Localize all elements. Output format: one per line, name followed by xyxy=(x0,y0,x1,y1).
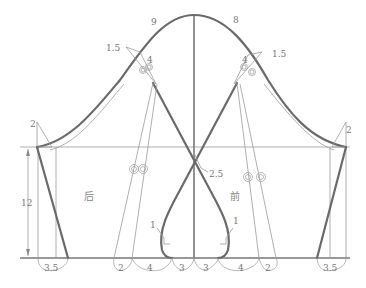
hem-left-4-label: 4 xyxy=(147,263,153,273)
back-crown-notch-icon xyxy=(140,64,153,74)
front-elbow-notch-icon xyxy=(244,173,266,182)
hem-right-35-label: 3.5 xyxy=(323,263,338,273)
front-crown-label: 8 xyxy=(233,15,239,25)
front-notch-offset-label: 1.5 xyxy=(272,49,287,59)
height-dimension-label: 12 xyxy=(21,198,32,208)
hem-right-4-label: 4 xyxy=(238,263,244,273)
left-vent-marker xyxy=(157,228,170,244)
hem-left-3-label: 3 xyxy=(179,263,185,273)
hem-left-35-label: 3.5 xyxy=(44,263,59,273)
arrow-up-icon xyxy=(26,149,30,156)
left-underarm-marker xyxy=(37,122,52,147)
hem-left-2-label: 2 xyxy=(118,263,124,273)
inner-crown-curve xyxy=(50,84,334,150)
front-guide-1 xyxy=(237,83,259,258)
right-underarm-label: 2 xyxy=(346,125,352,135)
right-vent-label: 1 xyxy=(233,216,239,226)
right-side-seam xyxy=(317,147,346,258)
back-panel-label: 后 xyxy=(84,191,94,202)
left-vent-label: 1 xyxy=(150,220,156,230)
sleeve-pattern-diagram: 9 8 1.5 4 1.5 4 2 2 2.5 12 1 1 后 前 3.5 2… xyxy=(0,0,366,288)
back-notch-offset-label: 1.5 xyxy=(106,43,121,53)
front-guide-2 xyxy=(240,84,276,258)
arrow-down-icon xyxy=(26,249,30,256)
front-notch-marker xyxy=(234,52,262,84)
hem-right-3-label: 3 xyxy=(203,263,209,273)
back-crown-label: 9 xyxy=(151,17,157,27)
hem-right-2-label: 2 xyxy=(265,263,271,273)
right-vent-marker xyxy=(220,228,233,244)
center-offset-label: 2.5 xyxy=(209,169,224,179)
left-underarm-label: 2 xyxy=(30,119,36,129)
right-underarm-marker xyxy=(332,122,346,147)
front-notch-dist-label: 4 xyxy=(242,55,248,65)
back-notch-dist-label: 4 xyxy=(147,55,153,65)
front-panel-label: 前 xyxy=(230,190,240,202)
sleeve-crown-curve xyxy=(37,15,346,147)
left-side-seam xyxy=(37,147,68,258)
